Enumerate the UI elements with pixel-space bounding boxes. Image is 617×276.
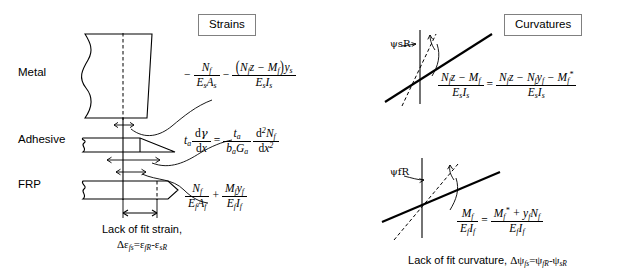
adhesive-shear-arrow-upper — [107, 157, 160, 163]
adhesive-shear-formula: tadγdx=tabaGad2Nfdx2 — [184, 128, 280, 154]
frp-layer-outline — [82, 181, 178, 199]
curvature-top-angle-arrow-right — [430, 35, 435, 50]
frp-dimension-arrow — [123, 210, 157, 216]
curvatures-title-box: Curvatures — [504, 14, 582, 36]
curvature-bottom-formula: MfEfIf=Mf* + yfNfEfIf — [456, 208, 544, 234]
strains-caption-line2: Δεfs=εfR-εsR — [52, 237, 232, 252]
curvatures-caption: Lack of fit curvature, Δψfs=ψfR-ψsR — [360, 253, 615, 268]
curvature-bottom-leader-line — [450, 178, 458, 210]
curvature-top-angle-label: ψsR — [390, 38, 411, 49]
adhesive-shear-arrow-lower — [116, 169, 146, 175]
curvatures-title-label: Curvatures — [515, 18, 571, 30]
adhesive-layer-outline — [82, 138, 175, 152]
strains-caption: Lack of fit strain, Δεfs=εfR-εsR — [52, 222, 232, 252]
strains-caption-line1: Lack of fit strain, — [52, 222, 232, 237]
strains-schematic — [0, 0, 320, 235]
curvature-bottom-angle-label: ψfR — [390, 166, 409, 177]
metal-strain-formula: −NfEsAs−(Nfz − Mf)ysEsIs — [182, 62, 297, 88]
metal-slip-arrow — [114, 122, 134, 127]
curvature-top-schematic — [380, 22, 510, 112]
figure-root: Strains Metal Adhesive FRP — [0, 0, 617, 276]
frp-strain-formula: NfEfAf+MfyfEfIf — [184, 183, 248, 209]
curvature-top-formula: Nfz − MfEsIs=Nfz − Nfyf − Mf*EsIs — [437, 72, 577, 98]
metal-block-outline — [82, 34, 152, 118]
